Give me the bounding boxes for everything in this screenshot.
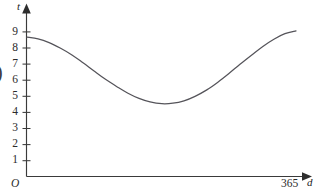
y-tick-label-2: 2 (4, 138, 18, 150)
y-axis-label: t (17, 1, 20, 12)
x-axis-label: d (307, 177, 313, 188)
chart-canvas (0, 0, 319, 190)
y-axis-arrowhead (22, 4, 31, 14)
x-tick-label-365: 365 (281, 178, 298, 190)
data-curve (27, 31, 296, 104)
y-tick-label-9: 9 (4, 26, 18, 38)
clipped-paren-glyph: ) (0, 62, 3, 82)
y-tick-label-6: 6 (4, 74, 18, 86)
y-tick-label-1: 1 (4, 154, 18, 166)
y-tick-label-3: 3 (4, 122, 18, 134)
y-tick-label-5: 5 (4, 90, 18, 102)
y-tick-label-8: 8 (4, 42, 18, 54)
y-tick-label-4: 4 (4, 106, 18, 118)
chart-figure: 9 8 7 6 5 4 3 2 1 t d O 365 ) (0, 0, 319, 190)
origin-label: O (11, 178, 19, 190)
y-tick-label-7: 7 (4, 58, 18, 70)
